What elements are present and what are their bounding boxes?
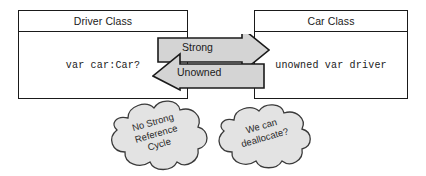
- car-class-header: Car Class: [255, 11, 407, 32]
- cloud-icon: [206, 100, 316, 172]
- cloud-no-strong-reference-cycle: No Strong Reference Cycle: [98, 96, 212, 174]
- cloud-shape: [219, 105, 310, 168]
- cloud-shape: [112, 101, 207, 169]
- diagram-canvas: Driver Class var car:Car? Car Class unow…: [0, 0, 426, 176]
- driver-class-header: Driver Class: [19, 11, 187, 32]
- relationship-double-arrow: Strong Unowned: [152, 34, 270, 92]
- cloud-icon: [98, 96, 212, 174]
- car-class-box: Car Class unowned var driver: [254, 10, 408, 99]
- cloud-we-can-deallocate: We can deallocate?: [206, 100, 316, 172]
- car-class-body: unowned var driver: [255, 32, 407, 98]
- double-arrow-icon: [152, 34, 270, 92]
